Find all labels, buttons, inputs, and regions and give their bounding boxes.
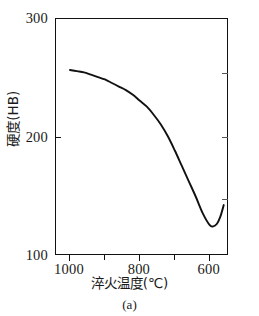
x-axis-minor-tick-mark-900 bbox=[104, 255, 105, 260]
y-axis-title: 硬度(HB) bbox=[7, 71, 21, 167]
figure-container: 300 200 100 硬度(HB) 1000800600 淬火温度(℃) (a… bbox=[0, 0, 259, 316]
x-axis-title: 淬火温度(℃) bbox=[0, 277, 259, 291]
x-axis-minor-tick-mark-700 bbox=[174, 255, 175, 260]
y-axis-right-tick-mark-3 bbox=[222, 199, 228, 200]
y-axis-right-tick-mark-2 bbox=[222, 137, 228, 138]
y-axis-right-tick-mark-1 bbox=[222, 73, 228, 74]
hardness-curve bbox=[70, 70, 224, 227]
x-axis-tick-label-1000: 1000 bbox=[54, 262, 84, 277]
x-axis-tick-label-600: 600 bbox=[198, 262, 220, 277]
y-axis-tick-mark-200 bbox=[55, 137, 61, 138]
y-axis-tick-label-100: 100 bbox=[0, 248, 48, 263]
figure-caption: (a) bbox=[0, 298, 259, 311]
y-axis-tick-label-300: 300 bbox=[0, 11, 48, 26]
x-axis-line bbox=[55, 254, 228, 255]
plot-area bbox=[55, 18, 228, 255]
data-curve-svg bbox=[56, 19, 229, 256]
